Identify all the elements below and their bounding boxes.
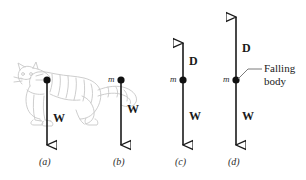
panel-b-caption: (b) bbox=[113, 157, 125, 167]
panel-d-mass-label: m bbox=[223, 75, 230, 84]
panel-d-mass-dot bbox=[232, 76, 239, 83]
diagram-vector-layer bbox=[0, 0, 306, 180]
panel-c-weight-label: W bbox=[189, 110, 201, 122]
panel-a-mass-dot bbox=[43, 76, 50, 83]
panel-c-mass-dot bbox=[179, 76, 186, 83]
panel-c-drag-label: D bbox=[189, 55, 198, 67]
falling-body-callout-line2: body bbox=[264, 75, 295, 88]
panel-c-caption: (c) bbox=[175, 157, 186, 167]
falling-body-leader-line bbox=[238, 69, 262, 79]
panel-b-mass-label: m bbox=[108, 75, 115, 84]
falling-body-callout-line1: Falling bbox=[264, 62, 295, 75]
panel-a-weight-label: W bbox=[53, 112, 65, 124]
panel-a-caption: (a) bbox=[39, 157, 51, 167]
panel-b-weight-label: W bbox=[127, 103, 139, 115]
free-body-diagram-figure: W (a) m W (b) D m W (c) D m W (d) Fallin… bbox=[0, 0, 306, 180]
panel-d-drag-label: D bbox=[242, 42, 251, 54]
falling-body-callout: Falling body bbox=[264, 62, 295, 87]
cat-icon bbox=[14, 62, 137, 126]
panel-d-weight-label: W bbox=[242, 110, 254, 122]
panel-b-mass-dot bbox=[117, 76, 124, 83]
panel-d-caption: (d) bbox=[228, 157, 240, 167]
panel-c-mass-label: m bbox=[170, 75, 177, 84]
